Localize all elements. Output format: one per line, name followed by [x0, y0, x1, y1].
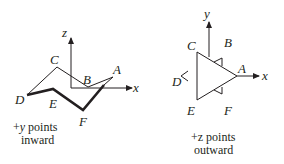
- ring-front-edges: [27, 85, 104, 110]
- left-caption-line1: +y points: [13, 120, 58, 134]
- vertex-f-label: F: [223, 103, 233, 118]
- x-axis-label: x: [261, 68, 268, 83]
- y-axis-label: y: [202, 6, 210, 21]
- vertex-a-label: A: [237, 61, 246, 76]
- right-caption-line2: outward: [194, 143, 233, 157]
- vertex-e-label: E: [48, 96, 57, 111]
- front-triangle: [197, 52, 237, 100]
- vertex-d-label: D: [171, 74, 182, 89]
- vertex-c-label: C: [50, 52, 59, 67]
- vertex-d-wedge: [181, 71, 188, 81]
- vertex-d-label: D: [14, 92, 25, 107]
- vertex-b-label: B: [83, 72, 91, 87]
- vertex-f-wedge: [214, 87, 222, 94]
- x-axis-label: x: [132, 80, 139, 95]
- right-caption-line1: +z points: [191, 130, 236, 144]
- ring-edge-fa: [104, 77, 113, 85]
- chair-conformation-figure: z x C B A D E F +y points inward y x C B…: [0, 0, 284, 164]
- vertex-a-label: A: [112, 62, 121, 77]
- right-top-view: y x C B A D E F +z points outward: [171, 6, 268, 157]
- z-axis-label: z: [61, 25, 67, 40]
- left-side-view: z x C B A D E F +y points inward: [13, 25, 139, 147]
- vertex-f-label: F: [78, 114, 88, 129]
- vertex-e-label: E: [186, 103, 195, 118]
- vertex-b-label: B: [224, 35, 232, 50]
- left-caption-line2: inward: [21, 133, 54, 147]
- vertex-c-label: C: [187, 38, 196, 53]
